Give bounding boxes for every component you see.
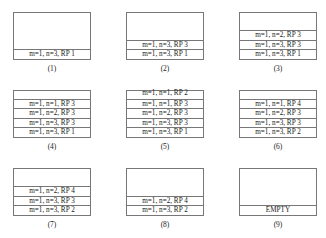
stack-box: m=1, n=1, RP 3 m=1, n=2, RP 3 m=1, n=3, … bbox=[13, 90, 91, 138]
stack-cell: m=1, n=3, RP 3 bbox=[14, 196, 90, 206]
stack-cell: m=1, n=3, RP 1 bbox=[240, 49, 316, 59]
stack-cell: m=1, n=3, RP 1 bbox=[127, 49, 203, 59]
stack-cell: m=1, n=1, RP 3 bbox=[14, 99, 90, 109]
panel-caption: (2) bbox=[126, 64, 204, 73]
stack-cell: m=1, n=2, RP 3 bbox=[240, 108, 316, 118]
stack-panel-8: m=1, n=2, RP 4 m=1, n=3, RP 2 (8) bbox=[126, 168, 206, 229]
stack-cell: m=1, n=3, RP 1 bbox=[14, 127, 90, 137]
stack-cell: m=1, n=3, RP 3 bbox=[127, 118, 203, 128]
panel-caption: (7) bbox=[13, 220, 91, 229]
stack-cell: m=1, n=3, RP 1 bbox=[127, 127, 203, 137]
stack-cell: m=1, n=2, RP 3 bbox=[14, 108, 90, 118]
stack-panel-5: m=1, n=1, RP 2 m=1, n=1, RP 3 m=1, n=2, … bbox=[126, 90, 206, 151]
stack-cell: m=1, n=3, RP 3 bbox=[240, 118, 316, 128]
stack-cell: m=1, n=3, RP 2 bbox=[127, 205, 203, 215]
stack-panel-4: m=1, n=1, RP 3 m=1, n=2, RP 3 m=1, n=3, … bbox=[13, 90, 93, 151]
panel-caption: (4) bbox=[13, 142, 91, 151]
stack-panel-3: m=1, n=2, RP 3 m=1, n=3, RP 3 m=1, n=3, … bbox=[239, 12, 319, 73]
stack-panel-2: m=1, n=3, RP 3 m=1, n=3, RP 1 (2) bbox=[126, 12, 206, 73]
stack-box: EMPTY bbox=[239, 168, 317, 216]
stack-box: m=1, n=2, RP 4 m=1, n=3, RP 3 m=1, n=3, … bbox=[13, 168, 91, 216]
stack-panel-7: m=1, n=2, RP 4 m=1, n=3, RP 3 m=1, n=3, … bbox=[13, 168, 93, 229]
stack-box: m=1, n=2, RP 4 m=1, n=3, RP 2 bbox=[126, 168, 204, 216]
stack-cell: m=1, n=1, RP 2 bbox=[127, 89, 203, 99]
stack-cell: m=1, n=3, RP 3 bbox=[240, 40, 316, 50]
stack-cell: m=1, n=1, RP 3 bbox=[127, 99, 203, 109]
stack-box: m=1, n=1, RP 2 m=1, n=1, RP 3 m=1, n=2, … bbox=[126, 90, 204, 138]
stack-cell: m=1, n=2, RP 3 bbox=[127, 108, 203, 118]
stack-box: m=1, n=3, RP 3 m=1, n=3, RP 1 bbox=[126, 12, 204, 60]
stack-cell-empty: EMPTY bbox=[240, 205, 316, 215]
stack-box: m=1, n=2, RP 3 m=1, n=3, RP 3 m=1, n=3, … bbox=[239, 12, 317, 60]
stack-panel-1: m=1, n=3, RP 1 (1) bbox=[13, 12, 93, 73]
stack-box: m=1, n=1, RP 4 m=1, n=2, RP 3 m=1, n=3, … bbox=[239, 90, 317, 138]
panel-caption: (3) bbox=[239, 64, 317, 73]
stack-cell: m=1, n=3, RP 1 bbox=[14, 49, 90, 59]
panel-caption: (6) bbox=[239, 142, 317, 151]
stack-cell: m=1, n=2, RP 4 bbox=[127, 196, 203, 206]
stack-panel-6: m=1, n=1, RP 4 m=1, n=2, RP 3 m=1, n=3, … bbox=[239, 90, 319, 151]
stack-cell: m=1, n=3, RP 2 bbox=[14, 205, 90, 215]
stack-cell: m=1, n=2, RP 4 bbox=[14, 186, 90, 196]
stack-cell: m=1, n=1, RP 4 bbox=[240, 99, 316, 109]
panel-caption: (8) bbox=[126, 220, 204, 229]
stack-panel-9: EMPTY (9) bbox=[239, 168, 319, 229]
panel-caption: (1) bbox=[13, 64, 91, 73]
panel-caption: (9) bbox=[239, 220, 317, 229]
panel-caption: (5) bbox=[126, 142, 204, 151]
stack-cell: m=1, n=3, RP 3 bbox=[14, 118, 90, 128]
stack-cell: m=1, n=3, RP 2 bbox=[240, 127, 316, 137]
stack-cell: m=1, n=3, RP 3 bbox=[127, 40, 203, 50]
stack-cell: m=1, n=2, RP 3 bbox=[240, 30, 316, 40]
stack-box: m=1, n=3, RP 1 bbox=[13, 12, 91, 60]
